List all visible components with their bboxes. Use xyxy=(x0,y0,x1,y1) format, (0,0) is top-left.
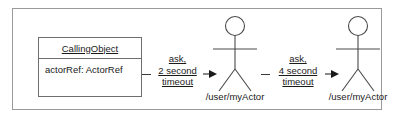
message-2-connector-line xyxy=(261,74,270,75)
message-arrow-1[interactable]: ask, 2 second timeout xyxy=(142,53,214,93)
uml-object-name: CallingObject xyxy=(62,43,119,54)
actor-1-label: /user/myActor xyxy=(206,91,265,102)
message-1-label: ask, 2 second timeout xyxy=(153,53,202,88)
uml-object-header: CallingObject xyxy=(39,38,141,59)
message-1-line-3: timeout xyxy=(153,76,202,88)
diagram-canvas: CallingObject actorRef: ActorRef ask, 2 … xyxy=(0,0,395,120)
message-2-line-2: 4 second xyxy=(272,65,324,77)
actor-2-label: /user/myActor xyxy=(329,91,388,102)
message-1-line-2: 2 second xyxy=(153,65,202,77)
actor-stick-figure-icon xyxy=(328,13,388,93)
uml-object-box-callingobject[interactable]: CallingObject actorRef: ActorRef xyxy=(38,37,142,97)
actor-1[interactable]: /user/myActor xyxy=(205,13,265,105)
diagram-frame: CallingObject actorRef: ActorRef ask, 2 … xyxy=(12,8,382,110)
actor-2[interactable]: /user/myActor xyxy=(328,13,388,105)
message-2-label: ask, 4 second timeout xyxy=(272,53,324,88)
uml-object-attributes-compartment: actorRef: ActorRef xyxy=(39,59,141,96)
message-1-connector-line xyxy=(142,74,151,75)
message-1-line-1: ask, xyxy=(153,53,202,65)
message-2-line-1: ask, xyxy=(272,53,324,65)
actor-stick-figure-icon xyxy=(205,13,265,93)
uml-object-attribute-actorref: actorRef: ActorRef xyxy=(45,64,123,75)
message-2-line-3: timeout xyxy=(272,76,324,88)
